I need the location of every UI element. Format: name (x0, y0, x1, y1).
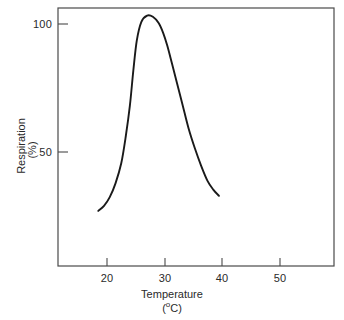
ytick-label-100: 100 (18, 18, 52, 30)
respiration-curve (98, 15, 219, 211)
respiration-temperature-chart: 20 30 40 50 100 50 Respiration (%) Tempe… (0, 0, 344, 320)
degree-icon: o (166, 300, 170, 309)
xtick-label-20: 20 (101, 272, 114, 284)
plot-canvas (0, 0, 344, 320)
x-axis-ticks (107, 258, 280, 266)
y-axis-unit: (%) (26, 132, 38, 168)
x-axis-title: Temperature (0, 288, 344, 300)
xtick-label-40: 40 (216, 272, 229, 284)
y-axis-ticks (58, 24, 68, 152)
plot-frame (58, 8, 334, 266)
x-axis-unit-text: (oC) (162, 302, 182, 314)
xtick-label-30: 30 (159, 272, 172, 284)
x-axis-unit: (oC) (0, 302, 344, 314)
xtick-label-50: 50 (274, 272, 287, 284)
